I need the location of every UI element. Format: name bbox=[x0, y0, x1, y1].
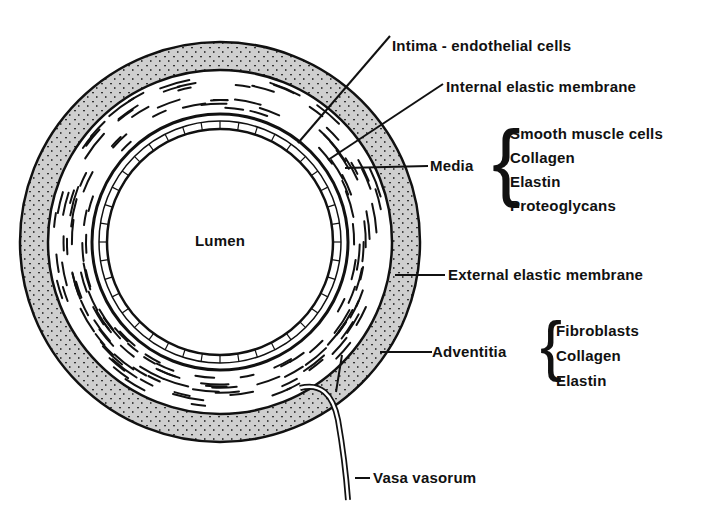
adventitia-label: Adventitia bbox=[432, 343, 507, 361]
adventitia-component: Fibroblasts bbox=[556, 318, 639, 343]
lumen-label: Lumen bbox=[195, 232, 245, 250]
external-elastic-label: External elastic membrane bbox=[448, 266, 643, 284]
adventitia-components-list: Fibroblasts Collagen Elastin bbox=[556, 318, 639, 393]
media-fiber bbox=[206, 386, 227, 387]
media-label: Media bbox=[430, 157, 474, 175]
media-component: Collagen bbox=[510, 146, 663, 170]
media-component: Elastin bbox=[510, 170, 663, 194]
vasa-vasorum-label: Vasa vasorum bbox=[373, 469, 476, 487]
media-component: Proteoglycans bbox=[510, 194, 663, 218]
adventitia-component: Elastin bbox=[556, 368, 639, 393]
adventitia-component: Collagen bbox=[556, 343, 639, 368]
intima-label: Intima - endothelial cells bbox=[392, 37, 571, 55]
media-components-list: Smooth muscle cells Collagen Elastin Pro… bbox=[510, 122, 663, 218]
internal-elastic-label: Internal elastic membrane bbox=[446, 78, 636, 96]
media-component: Smooth muscle cells bbox=[510, 122, 663, 146]
